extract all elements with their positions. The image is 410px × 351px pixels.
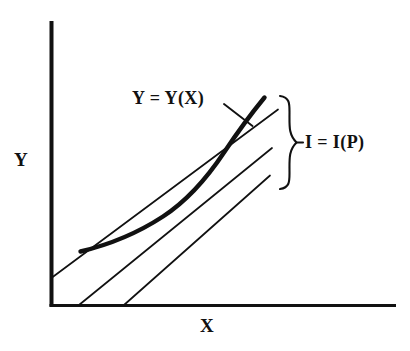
tangent-line-bundle — [52, 110, 278, 306]
tangent-line-2 — [79, 148, 272, 305]
axes-group — [50, 21, 397, 307]
x-axis-label: X — [200, 316, 214, 335]
figure-graphics — [0, 0, 410, 351]
curve-label: Y = Y(X) — [132, 89, 204, 107]
figure-canvas: Y X Y = Y(X) I = I(P) — [0, 0, 410, 351]
curly-brace — [280, 96, 303, 189]
tangent-line-3 — [124, 176, 270, 306]
y-axis-label: Y — [14, 150, 28, 169]
bundle-label: I = I(P) — [305, 133, 364, 151]
